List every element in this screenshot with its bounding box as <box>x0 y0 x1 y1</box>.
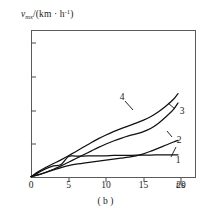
chart-figure: vmx/(km · h-1) 10203040 05101520 t/s 123… <box>0 0 211 218</box>
series-label-1: 1 <box>176 155 181 165</box>
figure-caption: ( b ) <box>0 196 211 206</box>
leader-line-4 <box>125 101 133 110</box>
leader-line-2 <box>167 131 172 137</box>
curve-1 <box>31 155 178 177</box>
curve-2 <box>31 140 178 176</box>
leader-line-3 <box>168 103 175 109</box>
series-label-4: 4 <box>120 92 125 102</box>
series-label-2: 2 <box>177 135 182 145</box>
curve-4 <box>31 94 178 177</box>
series-label-3: 3 <box>180 106 185 116</box>
